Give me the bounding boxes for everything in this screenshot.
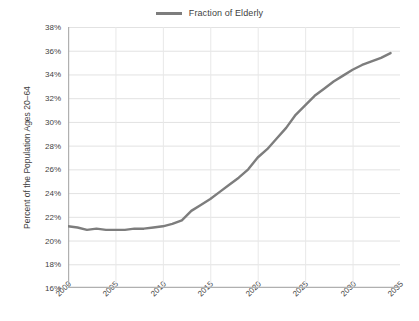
chart-container: Fraction of Elderly Percent of the Popul… [0,0,419,321]
grid-lines [68,27,400,288]
tick-marks [68,28,400,289]
plot-area [68,27,400,288]
axis-lines [68,27,400,288]
plot-svg [68,27,400,288]
